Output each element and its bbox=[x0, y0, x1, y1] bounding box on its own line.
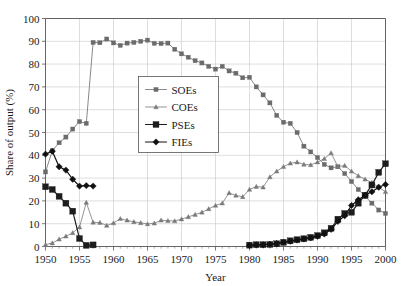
data-point-marker bbox=[377, 208, 381, 212]
y-tick-label: 90 bbox=[29, 35, 41, 47]
data-point-marker bbox=[376, 169, 382, 175]
data-point-marker bbox=[77, 225, 82, 229]
data-point-marker bbox=[281, 120, 285, 124]
data-point-marker bbox=[349, 209, 355, 215]
data-point-marker bbox=[234, 71, 238, 75]
data-point-marker bbox=[370, 201, 374, 205]
data-point-marker bbox=[186, 55, 190, 59]
data-point-marker bbox=[118, 43, 122, 47]
data-point-marker bbox=[369, 182, 375, 188]
y-tick-label: 20 bbox=[29, 195, 41, 207]
x-tick-label: 1975 bbox=[205, 253, 228, 265]
data-point-marker bbox=[281, 164, 286, 168]
data-point-marker bbox=[383, 211, 387, 215]
data-point-marker bbox=[275, 113, 279, 117]
data-point-marker bbox=[42, 151, 48, 157]
y-tick-label: 60 bbox=[29, 104, 41, 116]
data-point-marker bbox=[220, 201, 225, 205]
x-tick-label: 1995 bbox=[341, 253, 364, 265]
data-point-marker bbox=[43, 184, 49, 190]
data-point-marker bbox=[125, 41, 129, 45]
data-point-marker bbox=[43, 170, 47, 174]
x-axis-title: Year bbox=[205, 271, 226, 283]
data-point-marker bbox=[329, 166, 333, 170]
x-tick-label: 1985 bbox=[273, 253, 296, 265]
data-point-marker bbox=[349, 179, 353, 183]
legend-label-pses: PSEs bbox=[172, 119, 195, 131]
data-point-marker bbox=[77, 119, 81, 123]
data-point-marker bbox=[77, 236, 83, 242]
data-point-marker bbox=[227, 191, 232, 195]
x-tick-label: 2000 bbox=[375, 253, 398, 265]
data-point-marker bbox=[309, 150, 313, 154]
y-tick-label: 100 bbox=[23, 13, 40, 25]
data-point-marker bbox=[166, 41, 170, 45]
data-point-marker bbox=[57, 237, 62, 241]
series-line-pses bbox=[46, 187, 94, 246]
data-point-marker bbox=[173, 47, 177, 51]
data-point-marker bbox=[200, 210, 205, 214]
data-point-marker bbox=[274, 169, 279, 173]
data-point-marker bbox=[154, 87, 158, 91]
data-point-marker bbox=[50, 241, 55, 245]
data-point-marker bbox=[268, 101, 272, 105]
data-point-marker bbox=[213, 67, 217, 71]
data-point-marker bbox=[118, 216, 123, 220]
data-point-marker bbox=[329, 151, 334, 155]
x-tick-label: 1955 bbox=[69, 253, 92, 265]
data-point-marker bbox=[64, 135, 68, 139]
data-point-marker bbox=[63, 200, 69, 206]
data-point-marker bbox=[159, 41, 163, 45]
data-point-marker bbox=[90, 183, 96, 189]
data-point-marker bbox=[295, 130, 299, 134]
x-tick-label: 1970 bbox=[171, 253, 194, 265]
data-point-marker bbox=[342, 163, 347, 167]
data-point-marker bbox=[220, 64, 224, 68]
x-tick-label: 1990 bbox=[307, 253, 330, 265]
data-point-marker bbox=[383, 189, 388, 193]
data-point-marker bbox=[376, 184, 382, 190]
data-point-marker bbox=[247, 75, 251, 79]
data-point-marker bbox=[227, 69, 231, 73]
data-point-marker bbox=[363, 177, 368, 181]
data-point-marker bbox=[84, 121, 88, 125]
data-point-marker bbox=[90, 242, 96, 248]
legend-label-coes: COEs bbox=[172, 101, 198, 113]
data-point-marker bbox=[241, 76, 245, 80]
data-point-marker bbox=[91, 40, 95, 44]
data-point-marker bbox=[322, 162, 326, 166]
x-tick-label: 1965 bbox=[137, 253, 160, 265]
data-point-marker bbox=[83, 182, 89, 188]
data-point-marker bbox=[49, 187, 55, 193]
data-point-marker bbox=[356, 187, 360, 191]
data-point-marker bbox=[356, 174, 361, 178]
chart-figure: 0102030405060708090100195019551960196519… bbox=[0, 0, 408, 286]
data-point-marker bbox=[254, 85, 258, 89]
data-point-marker bbox=[315, 160, 320, 164]
data-point-marker bbox=[139, 39, 143, 43]
y-tick-label: 30 bbox=[29, 172, 41, 184]
y-tick-label: 70 bbox=[29, 81, 41, 93]
data-point-marker bbox=[64, 234, 69, 238]
data-point-marker bbox=[153, 122, 159, 128]
y-tick-label: 0 bbox=[34, 241, 40, 253]
data-point-marker bbox=[71, 127, 75, 131]
data-point-marker bbox=[383, 161, 389, 167]
data-point-marker bbox=[343, 171, 347, 175]
data-point-marker bbox=[132, 40, 136, 44]
data-point-marker bbox=[105, 37, 109, 41]
data-point-marker bbox=[70, 208, 76, 214]
data-point-marker bbox=[302, 144, 306, 148]
y-tick-label: 40 bbox=[29, 149, 41, 161]
legend-label-soes: SOEs bbox=[172, 84, 197, 96]
data-point-marker bbox=[200, 61, 204, 65]
data-point-marker bbox=[206, 207, 211, 211]
data-point-marker bbox=[152, 41, 156, 45]
y-tick-label: 10 bbox=[29, 218, 41, 230]
data-point-marker bbox=[56, 193, 62, 199]
data-point-marker bbox=[261, 93, 265, 97]
y-tick-label: 50 bbox=[29, 127, 41, 139]
data-point-marker bbox=[193, 59, 197, 63]
data-point-marker bbox=[295, 160, 300, 164]
y-axis-title: Share of output (%) bbox=[3, 89, 16, 176]
